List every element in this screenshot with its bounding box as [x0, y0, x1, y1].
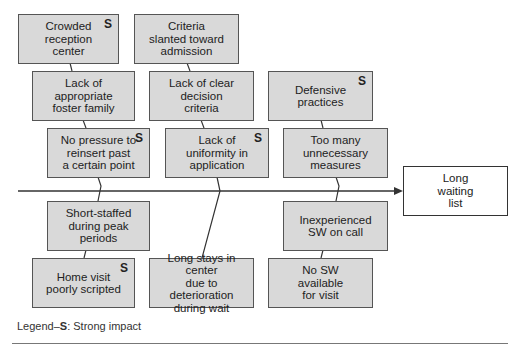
cause-box-long-stays-in-center: Long stays in center due to deterioratio…: [149, 258, 254, 308]
strong-impact-marker: S: [120, 262, 128, 275]
cause-box-crowded-reception-center: Crowded reception center S: [18, 14, 119, 64]
arrow-head-icon: [394, 187, 403, 195]
cause-box-no-pressure-reinsert: No pressure to reinsert past a certain p…: [47, 128, 150, 178]
cause-box-too-many-measures: Too many unnecessary measures: [283, 128, 388, 178]
cause-text: Inexperienced SW on call: [299, 214, 371, 239]
legend-prefix: Legend–: [17, 320, 60, 332]
cause-text: Crowded reception center: [45, 20, 92, 58]
cause-box-inexperienced-sw: Inexperienced SW on call: [283, 201, 388, 251]
legend-description: : Strong impact: [67, 320, 141, 332]
cause-text: Too many unnecessary measures: [303, 134, 368, 172]
cause-box-lack-decision-criteria: Lack of clear decision criteria: [149, 71, 254, 121]
cause-text: No SW available for visit: [298, 264, 343, 302]
cause-box-lack-uniformity: Lack of uniformity in application S: [165, 128, 269, 178]
cause-text: Lack of clear decision criteria: [169, 77, 234, 115]
cause-box-short-staffed: Short-staffed during peak periods: [47, 201, 150, 251]
cause-box-criteria-slanted: Criteria slanted toward admission: [134, 14, 239, 64]
cause-text: Short-staffed during peak periods: [66, 207, 132, 245]
legend: Legend–S: Strong impact: [17, 320, 141, 332]
cause-text: Criteria slanted toward admission: [149, 20, 224, 58]
cause-text: Lack of uniformity in application: [186, 134, 248, 172]
strong-impact-marker: S: [254, 132, 262, 145]
cause-text: Defensive practices: [295, 84, 346, 109]
effect-text: Long waiting list: [438, 172, 474, 210]
cause-text: Long stays in center due to deterioratio…: [154, 252, 249, 315]
cause-box-lack-foster-family: Lack of appropriate foster family: [32, 71, 135, 121]
strong-impact-marker: S: [358, 75, 366, 88]
cause-text: Lack of appropriate foster family: [53, 77, 115, 115]
cause-box-no-sw-available: No SW available for visit: [268, 258, 373, 308]
cause-text: Home visit poorly scripted: [46, 271, 121, 296]
strong-impact-marker: S: [104, 18, 112, 31]
bottom-divider: [12, 343, 508, 344]
cause-box-defensive-practices: Defensive practices S: [268, 71, 373, 121]
cause-text: No pressure to reinsert past a certain p…: [61, 134, 136, 172]
cause-box-home-visit-poorly-scripted: Home visit poorly scripted S: [32, 258, 135, 308]
strong-impact-marker: S: [135, 132, 143, 145]
effect-box-long-waiting-list: Long waiting list: [403, 166, 508, 216]
